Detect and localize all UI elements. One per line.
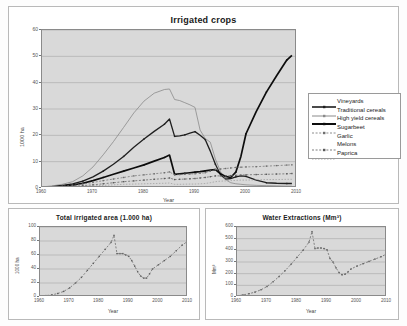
y-tick-label: 60 [19, 26, 38, 32]
left-chart-title: Total irrigated area (1.000 ha) [9, 214, 199, 221]
legend-item[interactable]: Sugarbeet [311, 123, 398, 132]
main-plot-area [41, 29, 296, 187]
right-chart-title: Water Extractions (Mm³) [206, 214, 398, 221]
line-marker-icon [311, 106, 337, 114]
line-marker-icon [311, 97, 337, 105]
x-tick-label: 2010 [285, 189, 307, 194]
y-tick-mark [39, 134, 41, 135]
y-tick-label: 100 [17, 223, 36, 228]
main-chart-title: Irrigated crops [9, 15, 398, 25]
legend-label: Garlic [337, 132, 353, 140]
main-chart-panel: Irrigated crops 1000 ha Year 01020304050… [8, 6, 399, 204]
x-tick-label: 1960 [30, 189, 52, 194]
y-tick-label: 600 [214, 223, 233, 228]
legend-label: Vineyards [337, 97, 364, 105]
y-tick-mark [37, 254, 39, 255]
main-x-axis-label: Year [41, 197, 296, 203]
y-tick-label: 40 [19, 79, 38, 85]
y-tick-mark [39, 55, 41, 56]
legend-item[interactable]: Paprica [311, 149, 398, 158]
x-tick-label: 1990 [183, 189, 205, 194]
y-tick-mark [234, 284, 236, 285]
y-tick-mark [39, 29, 41, 30]
y-tick-mark [37, 282, 39, 283]
thin-line-icon [311, 149, 337, 157]
y-tick-label: 20 [19, 131, 38, 137]
x-tick-label: 1960 [225, 298, 247, 303]
total-irrigated-area-panel: Total irrigated area (1.000 ha) 1000 ha … [8, 208, 200, 320]
water-extractions-panel: Water Extractions (Mm³) Mm³ Year 0100200… [205, 208, 399, 320]
dotted-marker-icon [311, 123, 337, 131]
y-tick-mark [39, 82, 41, 83]
x-tick-label: 1970 [81, 189, 103, 194]
legend-label: Melons [337, 140, 356, 148]
y-tick-label: 20 [17, 279, 36, 284]
legend-item[interactable]: Vineyards [311, 97, 398, 106]
y-tick-mark [37, 296, 39, 297]
x-tick-label: 1980 [87, 298, 109, 303]
y-tick-mark [39, 108, 41, 109]
x-tick-label: 2010 [176, 298, 198, 303]
right-x-axis-label: Year [236, 308, 386, 314]
y-tick-mark [234, 296, 236, 297]
x-tick-label: 1970 [58, 298, 80, 303]
y-tick-label: 400 [214, 246, 233, 251]
y-tick-label: 80 [17, 237, 36, 242]
line-marker-icon [311, 114, 337, 122]
x-tick-label: 2010 [375, 298, 397, 303]
left-x-axis-label: Year [39, 308, 187, 314]
y-tick-label: 10 [19, 158, 38, 164]
x-tick-label: 1970 [255, 298, 277, 303]
left-plot-area [39, 226, 187, 296]
left-chart-svg [40, 227, 187, 296]
chart-page: Irrigated crops 1000 ha Year 01020304050… [0, 0, 407, 326]
legend-item[interactable]: Garlic [311, 131, 398, 140]
y-tick-label: 300 [214, 258, 233, 263]
y-tick-label: 60 [17, 251, 36, 256]
x-tick-label: 2000 [146, 298, 168, 303]
y-tick-label: 500 [214, 235, 233, 240]
y-tick-mark [234, 238, 236, 239]
y-tick-label: 40 [17, 265, 36, 270]
y-tick-mark [37, 268, 39, 269]
main-chart-svg [42, 30, 296, 187]
legend-label: Sugarbeet [337, 123, 365, 131]
right-chart-svg [237, 227, 386, 296]
y-tick-label: 100 [214, 281, 233, 286]
x-tick-label: 1980 [285, 298, 307, 303]
x-tick-label: 2000 [345, 298, 367, 303]
y-tick-mark [234, 261, 236, 262]
y-tick-mark [234, 273, 236, 274]
x-tick-label: 1990 [315, 298, 337, 303]
y-tick-label: 200 [214, 270, 233, 275]
y-tick-mark [37, 240, 39, 241]
y-tick-label: 50 [19, 52, 38, 58]
x-tick-label: 1960 [28, 298, 50, 303]
chart-legend: VineyardsTraditional cerealsHigh yield c… [308, 93, 401, 159]
right-plot-area [236, 226, 386, 296]
legend-item[interactable]: Melons [311, 140, 398, 149]
legend-item[interactable]: Traditional cereals [311, 106, 398, 115]
legend-label: High yield cereals [337, 114, 384, 122]
x-tick-label: 2000 [234, 189, 256, 194]
y-tick-label: 30 [19, 105, 38, 111]
y-tick-mark [39, 161, 41, 162]
legend-label: Paprica [337, 149, 357, 157]
x-tick-label: 1990 [117, 298, 139, 303]
y-tick-mark [234, 226, 236, 227]
dotted-marker-icon [311, 140, 337, 148]
y-tick-mark [234, 249, 236, 250]
legend-label: Traditional cereals [337, 106, 386, 114]
y-tick-mark [37, 226, 39, 227]
blank-icon [311, 132, 337, 140]
y-tick-mark [39, 187, 41, 188]
x-tick-label: 1980 [132, 189, 154, 194]
legend-item[interactable]: High yield cereals [311, 114, 398, 123]
